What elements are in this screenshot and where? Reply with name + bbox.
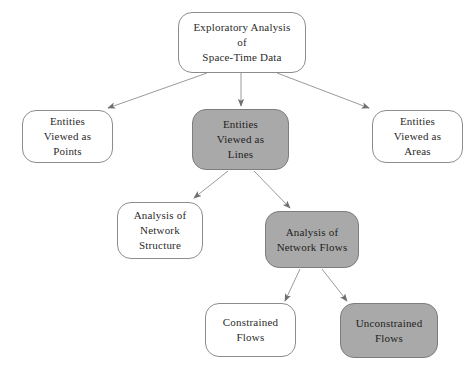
edge-flows-to-unconstrained [322,269,347,301]
node-line: Exploratory Analysis [193,20,290,35]
node-line: Lines [228,147,253,162]
edge-root-to-areas [277,73,369,108]
node-line: Viewed as [394,129,441,144]
node-line: Network [140,223,180,238]
edge-lines-to-structure [194,171,228,198]
unconstrained-flows-node: Unconstrained Flows [340,303,438,358]
node-line: Structure [139,238,181,253]
node-line: Flows [237,330,265,345]
node-line: Network Flows [277,240,348,255]
node-line: Points [53,144,82,159]
node-line: Flows [375,331,403,346]
analysis-of-network-flows-node: Analysis of Network Flows [265,211,359,268]
entities-viewed-as-areas-node: Entities Viewed as Areas [372,110,463,163]
exploratory-analysis-flowchart: Exploratory Analysis of Space-Time Data … [0,0,473,369]
node-line: Space-Time Data [202,50,281,65]
constrained-flows-node: Constrained Flows [205,303,296,357]
analysis-of-network-structure-node: Analysis of Network Structure [117,202,203,259]
edge-lines-to-flows [254,171,290,208]
node-line: Viewed as [217,132,264,147]
node-line: Entities [223,117,258,132]
node-line: Entities [400,114,435,129]
edge-flows-to-constrained [285,269,300,301]
node-line: Entities [50,114,85,129]
node-line: of [237,35,247,50]
node-line: Areas [404,144,431,159]
node-line: Unconstrained [356,316,423,331]
node-line: Viewed as [44,129,91,144]
entities-viewed-as-lines-node: Entities Viewed as Lines [192,109,289,170]
node-line: Constrained [223,315,278,330]
edge-root-to-points [108,73,207,108]
node-line: Analysis of [134,208,187,223]
node-line: Analysis of [286,225,339,240]
exploratory-analysis-node: Exploratory Analysis of Space-Time Data [178,12,306,73]
entities-viewed-as-points-node: Entities Viewed as Points [22,110,113,163]
